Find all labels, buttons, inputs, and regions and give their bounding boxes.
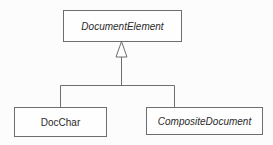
class-documentelement: DocumentElement [63,10,182,42]
class-label: DocumentElement [81,21,163,32]
class-docchar: DocChar [14,107,107,137]
class-label: CompositeDocument [158,116,251,127]
class-label: DocChar [41,117,80,128]
generalization-arrowhead-icon [116,42,127,58]
class-compositedocument: CompositeDocument [146,107,263,135]
